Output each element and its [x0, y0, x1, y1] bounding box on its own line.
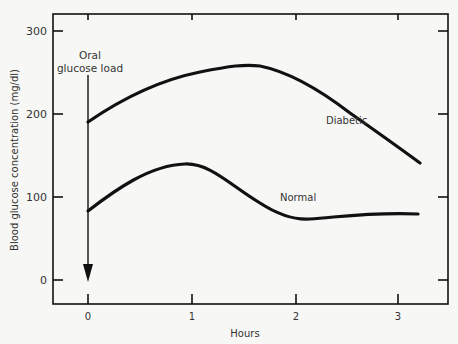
chart: 300 200 100 0 0 1 2 3 Hours Blood glucos… [0, 0, 458, 344]
x-tick-label-2: 2 [293, 311, 299, 322]
normal-curve [88, 164, 418, 219]
x-tick-label-3: 3 [395, 311, 401, 322]
x-tick-label-1: 1 [189, 311, 195, 322]
diabetic-curve [88, 65, 420, 163]
x-ticks-top [88, 14, 398, 20]
y-tick-label-200: 200 [26, 108, 47, 121]
y-tick-label-100: 100 [26, 191, 47, 204]
y-axis-label: Blood glucose concentration (mg/dl) [9, 69, 20, 251]
arrow-down-icon [83, 264, 93, 282]
x-axis-label: Hours [230, 328, 259, 339]
y-ticks-right [438, 31, 448, 280]
x-tick-label-0: 0 [85, 311, 91, 322]
diabetic-label: Diabetic [326, 115, 367, 126]
y-tick-label-0: 0 [40, 274, 47, 287]
x-ticks-bottom [88, 294, 398, 304]
y-tick-label-300: 300 [26, 25, 47, 38]
plot-frame [53, 14, 448, 304]
normal-label: Normal [280, 192, 316, 203]
annotation-line1: Oral [79, 49, 101, 61]
annotation-line2: glucose load [57, 62, 123, 74]
